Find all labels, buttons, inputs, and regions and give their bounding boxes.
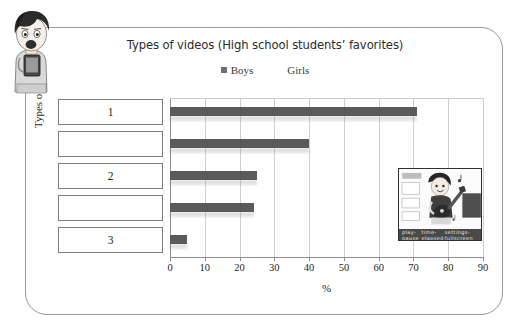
x-tick-label-20: 20 <box>234 262 245 273</box>
x-tick-label-70: 70 <box>408 262 419 273</box>
x-tick-label-10: 10 <box>200 262 211 273</box>
bar-boys-0 <box>170 107 417 116</box>
x-axis-label: % <box>170 282 483 294</box>
fullscreen-icon[interactable]: settings-fullscreen <box>445 229 478 241</box>
answer-box-2[interactable] <box>58 131 163 157</box>
bar-row <box>170 130 483 162</box>
x-tick-mark-0 <box>170 257 171 261</box>
legend-item-boys: Boys <box>221 64 254 76</box>
category-answer-boxes: 1 2 3 <box>58 98 166 258</box>
bar-boys-1 <box>170 139 309 148</box>
video-player-thumbnail[interactable]: play-pause time-elapsed settings-fullscr… <box>398 168 482 241</box>
x-tick-mark-50 <box>344 257 345 261</box>
bar-shadow <box>170 148 309 153</box>
x-tick-mark-40 <box>309 257 310 261</box>
answer-box-3[interactable]: 2 <box>58 163 163 189</box>
legend-label-boys: Boys <box>231 64 254 76</box>
play-pause-icon[interactable]: play-pause <box>402 229 421 241</box>
x-tick-label-30: 30 <box>269 262 280 273</box>
bar-shadow <box>170 244 187 249</box>
legend-label-girls: Girls <box>287 64 309 76</box>
x-tick-label-0: 0 <box>167 262 172 273</box>
gridline-90 <box>483 98 484 258</box>
bar-shadow <box>170 180 257 185</box>
legend-item-girls: Girls <box>275 64 309 76</box>
x-tick-label-40: 40 <box>304 262 315 273</box>
bar-shadow <box>170 116 417 121</box>
x-tick-mark-10 <box>205 257 206 261</box>
bar-boys-4 <box>170 235 187 244</box>
legend-swatch-boys-icon <box>221 67 227 73</box>
x-tick-mark-30 <box>274 257 275 261</box>
bar-row <box>170 98 483 130</box>
x-tick-label-50: 50 <box>339 262 350 273</box>
video-player-controls[interactable]: play-pause time-elapsed settings-fullscr… <box>399 229 481 240</box>
answer-box-4[interactable] <box>58 195 163 221</box>
x-tick-label-90: 90 <box>478 262 489 273</box>
chart-title: Types of videos (High school students’ f… <box>0 38 530 52</box>
student-with-tablet-icon <box>4 6 60 94</box>
bar-boys-2 <box>170 171 257 180</box>
x-tick-mark-90 <box>483 257 484 261</box>
x-tick-mark-20 <box>240 257 241 261</box>
answer-box-5[interactable]: 3 <box>58 227 163 253</box>
x-tick-label-80: 80 <box>443 262 454 273</box>
x-tick-mark-70 <box>413 257 414 261</box>
bar-shadow <box>170 212 254 217</box>
chart-legend: Boys Girls <box>0 64 530 76</box>
time-elapsed: time-elapsed <box>421 229 444 241</box>
x-tick-label-60: 60 <box>373 262 384 273</box>
x-tick-mark-80 <box>448 257 449 261</box>
bar-boys-3 <box>170 203 254 212</box>
answer-box-1[interactable]: 1 <box>58 99 163 125</box>
legend-swatch-girls-icon <box>275 66 283 74</box>
x-axis-ticks: 0102030405060708090 <box>170 262 483 278</box>
x-tick-mark-60 <box>379 257 380 261</box>
